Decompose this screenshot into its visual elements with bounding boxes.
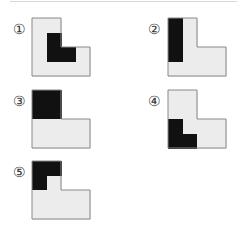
shape-outline [31, 89, 91, 149]
shape-outline [31, 160, 91, 220]
l-shape-figure[interactable] [32, 90, 90, 148]
option-number-label[interactable]: ④ [148, 94, 161, 108]
option-number-label[interactable]: ③ [13, 94, 26, 108]
option-number-label[interactable]: ⑤ [13, 165, 26, 179]
option-number-label[interactable]: ① [13, 22, 26, 36]
shape-outline [167, 89, 227, 149]
top-divider [10, 1, 237, 2]
l-shape-figure[interactable] [168, 18, 226, 76]
l-shape-figure[interactable] [32, 18, 90, 76]
l-shape-figure[interactable] [168, 90, 226, 148]
option-number-label[interactable]: ② [148, 22, 161, 36]
l-shape-figure[interactable] [32, 161, 90, 219]
shape-outline [31, 17, 91, 77]
shape-outline [167, 17, 227, 77]
